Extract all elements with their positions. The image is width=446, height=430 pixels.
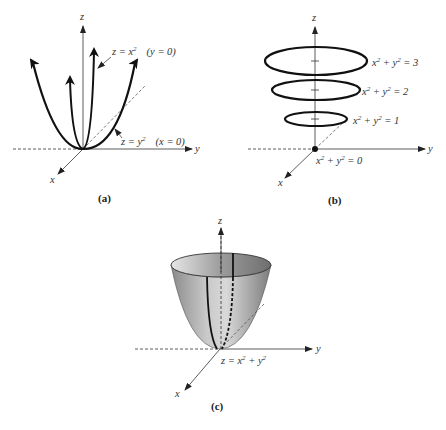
parabola-x-trace [70,52,94,149]
y-axis-label: y [194,143,200,154]
x-axis [185,349,220,390]
caption-b: (b) [328,194,342,207]
z-axis-label: z [311,12,316,23]
label-level-0: x2 + y2 = 0 [315,154,363,166]
origin-point [312,146,318,152]
parabola-y-trace [33,63,135,149]
panel-a: y z x z = x2(y = 0) z = y2(x = 0) (a) [13,11,200,205]
x-axis [285,149,315,178]
x-axis-label: x [174,388,180,399]
caption-c: (c) [211,400,224,413]
y-axis-label: y [427,143,433,154]
pointer-x-trace [98,57,111,68]
label-level-1: x2 + y2 = 1 [352,114,399,126]
label-z-x2: z = x2(y = 0) [111,45,176,58]
caption-a: (a) [98,192,111,205]
x-axis [58,149,83,174]
label-level-2: x2 + y2 = 2 [361,85,409,97]
label-level-3: x2 + y2 = 3 [371,56,418,68]
x-axis-label: x [277,177,283,188]
y-axis-label: y [315,343,321,354]
panel-c: y z x z = x2 + y2 (c) [135,215,321,413]
panel-b: y z x x2 + y2 = 3 x2 + y2 = 2 x2 + y2 = … [248,12,433,207]
paraboloid-figure: y z x z = x2(y = 0) z = y2(x = 0) (a) y [0,0,446,430]
label-z-y2: z = y2(x = 0) [120,135,185,148]
x-axis-label: x [49,174,55,185]
z-axis-label: z [217,215,222,226]
z-axis-label: z [79,11,84,22]
surface-equation-label: z = x2 + y2 [220,354,267,366]
